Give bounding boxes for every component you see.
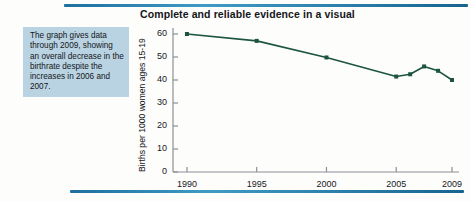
y-tick-label: 60 [145,28,167,38]
top-rule-decoration [64,4,468,7]
x-tick-label: 2000 [306,179,346,189]
plot-area: Births per 1000 women ages 15-19 0102030… [137,24,462,184]
y-tick-label: 20 [145,120,167,130]
bottom-rule-decoration [70,190,464,193]
x-tick-label: 2009 [432,179,471,189]
y-tick-label: 50 [145,51,167,61]
callout-box: The graph gives data through 2009, showi… [23,27,129,97]
x-tick-label: 1995 [237,179,277,189]
x-tick-label: 1990 [167,179,207,189]
callout-text: The graph gives data through 2009, showi… [30,31,124,93]
y-tick-label: 40 [145,74,167,84]
y-tick-label: 10 [145,143,167,153]
figure-container: Complete and reliable evidence in a visu… [0,0,471,202]
y-tick-label: 0 [145,166,167,176]
y-tick-label: 30 [145,97,167,107]
chart-svg [137,24,462,184]
chart-title: Complete and reliable evidence in a visu… [140,8,470,20]
x-tick-label: 2005 [376,179,416,189]
